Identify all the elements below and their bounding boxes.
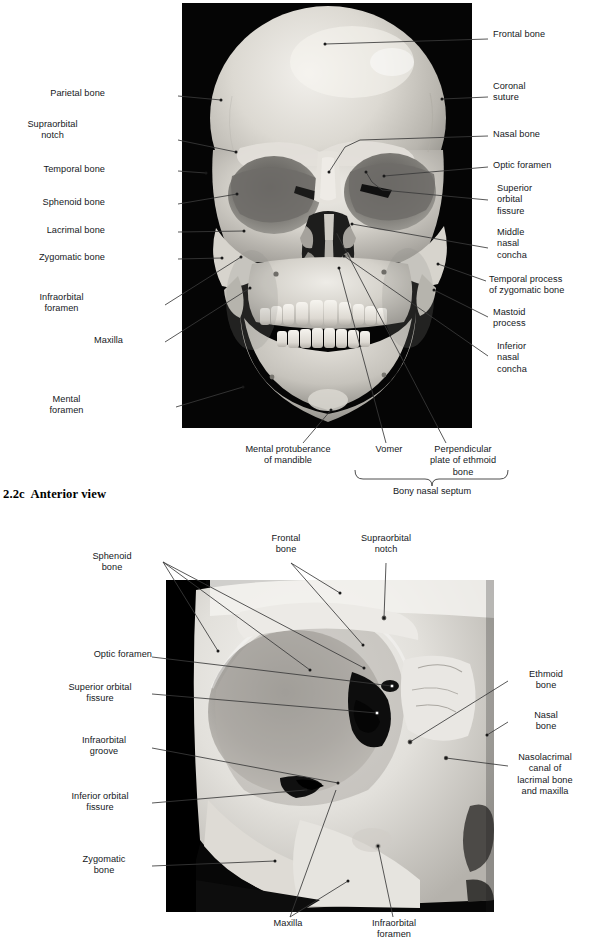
- label-lacrimal-bone: Lacrimal bone: [0, 225, 105, 236]
- label-perpendicular-plate-of-ethmoid-bone: Perpendicular plate of ethmoid bone: [418, 444, 508, 478]
- figure-orbital-complex: Frontal bone Supraorbital notch Sphenoid…: [0, 512, 592, 944]
- label-orbital-supraorbital-notch: Supraorbital notch: [342, 533, 430, 556]
- label-parietal-bone: Parietal bone: [0, 88, 105, 99]
- label-orbital-frontal-bone: Frontal bone: [250, 533, 322, 556]
- label-supraorbital-notch: Supraorbital notch: [0, 119, 105, 142]
- label-bony-nasal-septum: Bony nasal septum: [382, 486, 482, 497]
- label-orbital-infraorbital-groove: Infraorbital groove: [56, 735, 152, 758]
- figure-skull-anterior-view: Parietal bone Supraorbital notch Tempora…: [0, 0, 592, 512]
- label-inferior-nasal-concha: Inferior nasal concha: [497, 341, 592, 375]
- label-orbital-inferior-orbital-fissure: Inferior orbital fissure: [48, 791, 152, 814]
- label-infraorbital-foramen: Infraorbital foramen: [0, 292, 123, 315]
- label-orbital-nasal-bone: Nasal bone: [508, 710, 584, 733]
- label-nasal-bone: Nasal bone: [493, 129, 592, 140]
- label-coronal-suture: Coronal suture: [493, 81, 592, 104]
- label-zygomatic-bone: Zygomatic bone: [0, 252, 105, 263]
- label-middle-nasal-concha: Middle nasal concha: [497, 227, 592, 261]
- label-mental-protuberance-of-mandible: Mental protuberance of mandible: [230, 444, 346, 467]
- label-orbital-zygomatic-bone: Zygomatic bone: [56, 854, 152, 877]
- skull-anterior-photograph: [182, 3, 472, 428]
- textbook-page: Parietal bone Supraorbital notch Tempora…: [0, 0, 592, 944]
- label-orbital-optic-foramen: Optic foramen: [48, 649, 152, 660]
- label-maxilla: Maxilla: [0, 335, 123, 346]
- label-optic-foramen: Optic foramen: [493, 160, 592, 171]
- label-orbital-maxilla: Maxilla: [254, 918, 322, 929]
- label-orbital-sphenoid-bone: Sphenoid bone: [66, 551, 158, 574]
- label-sphenoid-bone: Sphenoid bone: [0, 197, 105, 208]
- label-orbital-ethmoid-bone: Ethmoid bone: [508, 669, 584, 692]
- label-orbital-superior-orbital-fissure: Superior orbital fissure: [48, 682, 152, 705]
- label-vomer: Vomer: [357, 444, 421, 455]
- label-orbital-infraorbital-foramen: Infraorbital foramen: [355, 918, 433, 941]
- figure-orbital-graphics: [0, 512, 592, 944]
- figure-caption-2-2c: 2.2c Anterior view: [3, 487, 106, 502]
- label-temporal-bone: Temporal bone: [0, 164, 105, 175]
- label-temporal-process-of-zygomatic-bone: Temporal process of zygomatic bone: [489, 274, 592, 297]
- orbital-complex-photograph: [166, 580, 494, 912]
- label-mastoid-process: Mastoid process: [493, 307, 592, 330]
- label-frontal-bone: Frontal bone: [493, 29, 592, 40]
- label-orbital-nasolacrimal-canal: Nasolacrimal canal of lacrimal bone and …: [500, 752, 590, 798]
- label-superior-orbital-fissure: Superior orbital fissure: [497, 183, 592, 217]
- label-mental-foramen: Mental foramen: [0, 394, 133, 417]
